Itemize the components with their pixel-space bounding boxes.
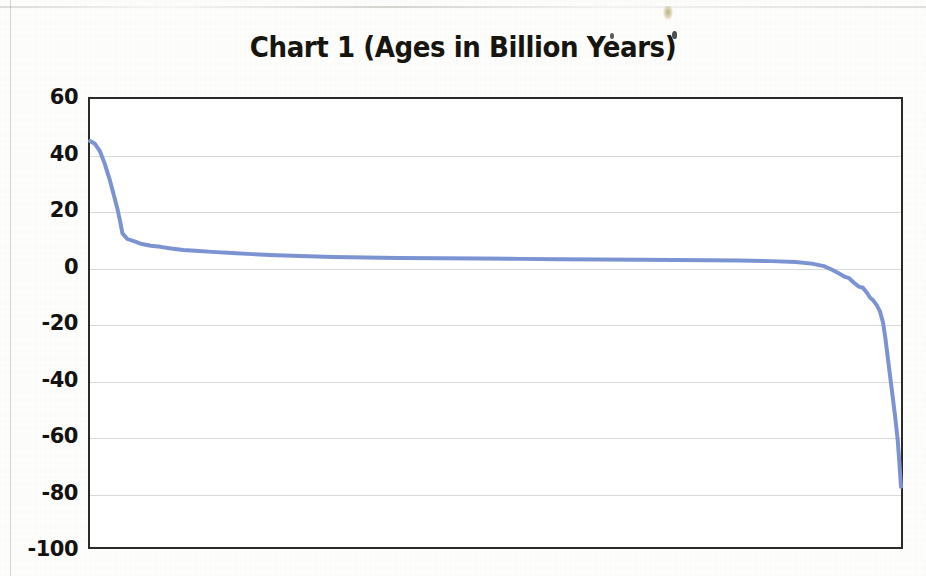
y-axis-tick-label: -60 <box>42 424 78 448</box>
y-axis-tick-labels: 6040200-20-40-60-80-100 <box>0 97 78 549</box>
scan-streak-artifact <box>0 6 926 8</box>
chart-title: Chart 1 (Ages in Billion Years) <box>46 30 879 64</box>
scanned-page: Chart 1 (Ages in Billion Years) 6040200-… <box>0 0 926 576</box>
scan-smudge-artifact <box>663 6 673 20</box>
series-line-chart <box>90 99 901 547</box>
y-axis-tick-label: -40 <box>42 368 78 392</box>
y-axis-tick-label: 20 <box>50 198 78 222</box>
y-axis-tick-label: -80 <box>42 481 78 505</box>
y-axis-tick-label: 0 <box>64 255 78 279</box>
y-axis-tick-label: 40 <box>50 142 78 166</box>
plot-area <box>88 97 903 549</box>
series-line-path <box>90 141 901 487</box>
y-axis-tick-label: -100 <box>27 537 78 561</box>
y-axis-tick-label: 60 <box>50 85 78 109</box>
y-axis-tick-label: -20 <box>42 311 78 335</box>
